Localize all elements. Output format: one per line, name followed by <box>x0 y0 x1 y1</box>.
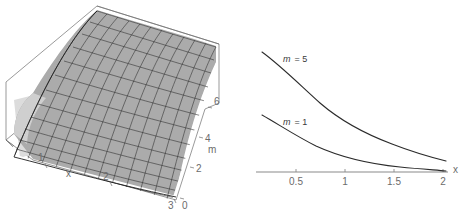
figure-container: 1 2 3 x 0 2 4 6 m <box>0 0 459 212</box>
surface-plot-svg: 1 2 3 x 0 2 4 6 m <box>0 0 240 212</box>
surface-m-tick-6: 6 <box>214 96 220 107</box>
curve-label-m5-symbol: m <box>283 54 291 64</box>
surface-mesh <box>14 10 216 203</box>
surface-x-axis-label: x <box>66 168 71 179</box>
curve-m-5 <box>262 52 446 161</box>
surface-m-tick-0: 0 <box>182 200 188 211</box>
line-plot-x-axis-label: x <box>453 164 458 175</box>
surface-m-tick-4: 4 <box>205 133 211 144</box>
line-plot-x-tick-2: 2 <box>440 176 446 187</box>
curve-label-m5: m= 5 <box>283 54 307 64</box>
curve-label-m5-value: = 5 <box>295 54 308 64</box>
curve-label-m1: m= 1 <box>283 117 307 127</box>
surface-plot-panel: 1 2 3 x 0 2 4 6 m <box>0 0 240 212</box>
line-plot-x-tick-0p5: 0.5 <box>289 176 303 187</box>
curve-label-m1-symbol: m <box>283 117 291 127</box>
line-plot-x-tick-1: 1 <box>342 176 348 187</box>
surface-x-tick-2: 2 <box>103 171 109 182</box>
line-plot-x-tick-1p5: 1.5 <box>387 176 401 187</box>
line-plot-panel: 0.5 1 1.5 2 x m= 5 m= 1 <box>240 0 459 212</box>
surface-x-tick-1: 1 <box>38 152 44 163</box>
line-plot-svg: 0.5 1 1.5 2 x m= 5 m= 1 <box>240 0 459 212</box>
surface-m-axis-label: m <box>208 144 216 155</box>
surface-m-tick-2: 2 <box>196 163 202 174</box>
curve-label-m1-value: = 1 <box>295 117 308 127</box>
surface-x-tick-3: 3 <box>168 200 174 211</box>
